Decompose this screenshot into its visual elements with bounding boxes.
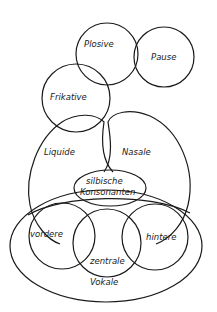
nasale-label: Nasale bbox=[122, 147, 151, 157]
pause-label: Pause bbox=[151, 52, 176, 62]
silbische-label: silbische bbox=[86, 176, 123, 186]
frikative-label: Frikative bbox=[50, 92, 87, 102]
plosive-set bbox=[76, 23, 138, 85]
hintere-label: hintere bbox=[146, 232, 176, 242]
vordere-label: vordere bbox=[30, 229, 63, 239]
plosive-label: Plosive bbox=[84, 39, 114, 49]
konsonanten-label: Konsonanten bbox=[80, 187, 135, 197]
vowel-inner-arc bbox=[28, 199, 190, 215]
phoneme-class-venn-diagram: Plosive Pause Frikative Liquide Nasale s… bbox=[0, 0, 217, 312]
zentrale-set bbox=[73, 209, 141, 277]
vokale-label: Vokale bbox=[90, 277, 118, 287]
liquide-label: Liquide bbox=[44, 147, 75, 157]
zentrale-label: zentrale bbox=[89, 256, 125, 266]
